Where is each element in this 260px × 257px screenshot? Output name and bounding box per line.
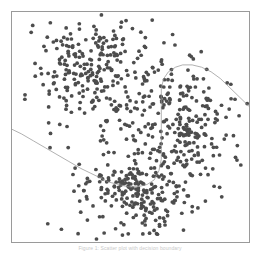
scatter-point [210,137,214,141]
scatter-point [121,205,125,209]
scatter-point [132,61,136,65]
scatter-point [136,192,140,196]
scatter-point [120,197,124,201]
scatter-point [136,151,140,155]
scatter-point [109,53,113,57]
scatter-point [114,227,118,231]
scatter-point [81,95,85,99]
scatter-point [188,85,192,89]
scatter-point [105,180,109,184]
scatter-point [167,179,171,183]
scatter-point [47,92,51,96]
scatter-point [99,188,103,192]
scatter-point [70,94,74,98]
scatter-point [192,77,196,81]
scatter-point [165,99,169,103]
scatter-point [54,88,58,92]
scatter-point [156,232,160,236]
scatter-point [91,107,95,111]
scatter-point [59,39,63,43]
scatter-point [163,78,167,82]
scatter-point [178,85,182,89]
scatter-point [79,72,83,76]
scatter-point [163,220,167,224]
scatter-point [125,107,129,111]
scatter-point [190,205,194,209]
scatter-point [146,73,150,77]
scatter-point [118,118,122,122]
scatter-point [49,132,53,136]
scatter-point [55,74,59,78]
scatter-point [211,154,215,158]
scatter-point [95,237,99,241]
scatter-point [190,96,194,100]
scatter-point [81,54,85,58]
scatter-point [176,156,180,160]
scatter-point [151,65,155,69]
scatter-point [156,68,160,72]
scatter-point [69,110,73,114]
scatter-point [182,188,186,192]
scatter-point [67,54,71,58]
scatter-point [125,123,129,127]
scatter-point [200,126,204,130]
scatter-point [140,151,144,155]
scatter-point [65,37,69,41]
scatter-point [122,200,126,204]
scatter-point [172,161,176,165]
scatter-point [146,133,150,137]
scatter-point [84,182,88,186]
scatter-point [239,163,243,167]
scatter-point [205,104,209,108]
scatter-point [232,134,236,138]
scatter-point [64,26,68,30]
scatter-point [171,181,175,185]
scatter-point [214,117,218,121]
scatter-point [111,194,115,198]
scatter-point [161,106,165,110]
scatter-point [155,174,159,178]
scatter-point [162,41,166,45]
scatter-point [84,72,88,76]
scatter-point [153,70,157,74]
scatter-point [186,131,190,135]
scatter-point [156,197,160,201]
scatter-point [144,209,148,213]
scatter-point [86,76,90,80]
scatter-point [112,108,116,112]
scatter-point [136,56,140,60]
scatter-point [65,104,69,108]
scatter-point [184,180,188,184]
scatter-point [94,168,98,172]
scatter-point [153,166,157,170]
scatter-point [143,190,147,194]
scatter-point [125,137,129,141]
scatter-point [140,172,144,176]
scatter-point [131,194,135,198]
scatter-point [133,70,137,74]
scatter-point [126,154,130,158]
scatter-point [152,174,156,178]
scatter-point [154,185,158,189]
scatter-point [109,45,113,49]
scatter-point [119,60,123,64]
scatter-point [113,99,117,103]
scatter-point [173,144,177,148]
scatter-point [185,162,189,166]
figure-container: Figure 1: Scatter plot with decision bou… [0,0,260,257]
scatter-point [110,68,114,72]
scatter-point [58,95,62,99]
scatter-point [150,18,154,22]
scatter-point [63,77,67,81]
scatter-point [206,173,210,177]
scatter-point [64,68,68,72]
scatter-point [73,166,77,170]
scatter-point [173,43,177,47]
scatter-point [159,84,163,88]
scatter-point [106,60,110,64]
scatter-point [133,152,137,156]
scatter-point [112,170,116,174]
scatter-point [145,195,149,199]
scatter-point [119,25,123,29]
scatter-point [164,208,168,212]
